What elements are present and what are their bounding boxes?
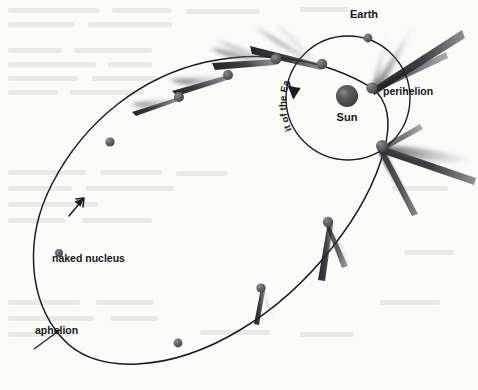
comet-tail-p8 (378, 124, 478, 216)
comet-orbit-diagram: orbit of the Earth Sun Earth (0, 0, 478, 390)
comet-nucleus-p3 (174, 92, 184, 102)
comet-nucleus-p6 (317, 59, 327, 69)
sun-body-group (336, 85, 358, 107)
comet-nucleus-p10 (256, 283, 265, 292)
comet-nucleus-p9 (323, 217, 333, 227)
aphelion-label: aphelion (35, 324, 78, 336)
diagram-canvas: orbit of the Earth Sun Earth (0, 0, 478, 390)
comet-orbit-ellipse (33, 56, 388, 364)
comet-nucleus-p7-perihelion (366, 82, 377, 93)
comet-orbit-path-group (33, 56, 388, 364)
comet-tail-p7-perihelion (372, 16, 465, 95)
comet-tail-p9 (318, 222, 352, 281)
earth-label: Earth (350, 8, 378, 20)
comet-nucleus-p8 (376, 140, 388, 152)
earth-sphere (364, 34, 373, 43)
sun-highlight (340, 90, 347, 95)
perihelion-label: perihelion (383, 85, 433, 97)
comet-nucleus-p11 (174, 339, 183, 348)
comet-tail-p10 (254, 288, 275, 325)
sun-sphere (336, 85, 358, 107)
comet-nucleus-p4 (223, 70, 233, 80)
comet-direction-arrow (69, 198, 84, 216)
naked-nucleus-label: naked nucleus (52, 252, 125, 264)
comet-nucleus-p2 (105, 137, 114, 146)
sun-label: Sun (337, 111, 358, 123)
comet-tail-p3 (131, 97, 179, 116)
earth-body-group (364, 34, 373, 43)
comet-nucleus-p5 (271, 54, 282, 65)
